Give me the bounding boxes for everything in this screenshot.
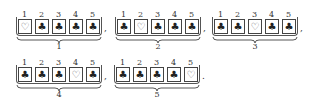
- club-filled-icon: ♣: [35, 19, 49, 34]
- club-filled-icon: ♣: [133, 67, 147, 82]
- arrangement-number: 3: [212, 42, 298, 52]
- club-filled-icon: ♣: [86, 19, 100, 34]
- separator-punctuation: ,: [104, 23, 107, 33]
- club-filled-icon: ♣: [18, 67, 32, 82]
- heart-outline-icon: ♡: [18, 19, 32, 34]
- heart-outline-icon: ♡: [69, 67, 83, 82]
- arrangement-number: 5: [114, 90, 200, 100]
- separator-punctuation: ,: [300, 23, 303, 33]
- club-filled-icon: ♣: [52, 67, 66, 82]
- club-filled-icon: ♣: [231, 19, 245, 34]
- separator-punctuation: ,: [203, 23, 206, 33]
- heart-outline-icon: ♡: [134, 19, 148, 34]
- separator-punctuation: .: [202, 71, 205, 81]
- arrangement-number: 4: [16, 90, 102, 100]
- arrangement-group-4: 12345♣♣♣♡♣4,: [16, 59, 102, 103]
- club-filled-icon: ♣: [52, 19, 66, 34]
- club-filled-icon: ♣: [168, 19, 182, 34]
- club-filled-icon: ♣: [214, 19, 228, 34]
- club-filled-icon: ♣: [86, 67, 100, 82]
- arrangement-number: 1: [16, 42, 102, 52]
- club-filled-icon: ♣: [151, 19, 165, 34]
- club-filled-icon: ♣: [116, 67, 130, 82]
- club-filled-icon: ♣: [282, 19, 296, 34]
- club-filled-icon: ♣: [185, 19, 199, 34]
- heart-outline-icon: ♡: [248, 19, 262, 34]
- arrangement-group-2: 12345♣♡♣♣♣2,: [115, 11, 201, 55]
- heart-outline-icon: ♡: [184, 67, 198, 82]
- separator-punctuation: ,: [104, 71, 107, 81]
- club-filled-icon: ♣: [167, 67, 181, 82]
- arrangement-number: 2: [115, 42, 201, 52]
- arrangement-group-3: 12345♣♣♡♣♣3,: [212, 11, 298, 55]
- club-filled-icon: ♣: [35, 67, 49, 82]
- club-filled-icon: ♣: [150, 67, 164, 82]
- club-filled-icon: ♣: [117, 19, 131, 34]
- club-filled-icon: ♣: [265, 19, 279, 34]
- club-filled-icon: ♣: [69, 19, 83, 34]
- arrangement-group-5: 12345♣♣♣♣♡5.: [114, 59, 200, 103]
- arrangement-group-1: 12345♡♣♣♣♣1,: [16, 11, 102, 55]
